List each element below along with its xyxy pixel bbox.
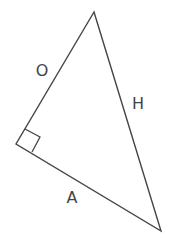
label-opposite: O [36, 61, 49, 80]
triangle-outline [16, 12, 161, 231]
right-angle-marker [25, 129, 40, 152]
label-adjacent: A [67, 188, 78, 207]
label-hypotenuse: H [132, 94, 144, 113]
right-triangle-diagram: O H A [0, 0, 171, 250]
